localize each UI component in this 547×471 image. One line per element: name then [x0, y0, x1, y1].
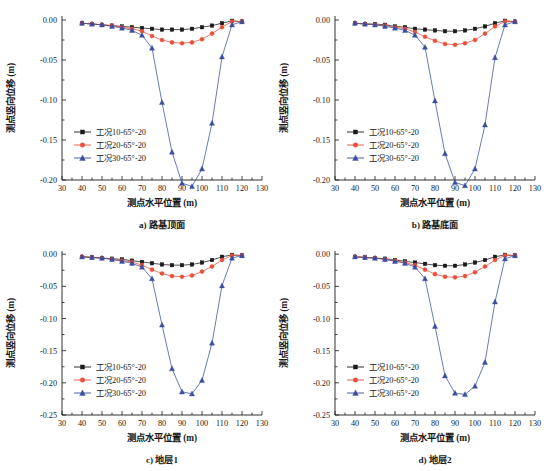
y-axis-title: 测点竖向位移 (m) — [5, 298, 17, 368]
data-point — [492, 55, 497, 60]
data-point — [210, 264, 214, 268]
x-tick-label: 70 — [138, 184, 146, 193]
data-point — [190, 27, 194, 31]
data-point — [433, 263, 437, 267]
data-point — [160, 271, 164, 275]
legend-marker — [80, 143, 85, 148]
data-point — [432, 98, 437, 103]
x-tick-label: 130 — [256, 419, 268, 428]
series-2 — [80, 20, 244, 46]
legend-marker — [353, 130, 357, 134]
y-tick-label: 0.00 — [43, 16, 57, 25]
data-point — [210, 32, 214, 36]
legend-label: 工况20-65°-20 — [369, 141, 419, 150]
data-point — [170, 40, 174, 44]
data-point — [473, 270, 477, 274]
legend-marker — [353, 143, 358, 148]
data-point — [482, 122, 487, 127]
data-point — [179, 180, 184, 185]
data-point — [199, 166, 204, 171]
x-tick-label: 120 — [236, 419, 248, 428]
chart-c: 304050607080901001101201300.00-0.05-0.10… — [0, 235, 273, 470]
x-tick-label: 50 — [98, 419, 106, 428]
data-point — [443, 264, 447, 268]
y-tick-label: -0.10 — [40, 96, 57, 105]
data-point — [180, 28, 184, 32]
subplot-caption: d) 地层2 — [418, 454, 451, 465]
y-tick-label: 0.00 — [316, 250, 330, 259]
subplot-c: 304050607080901001101201300.00-0.05-0.10… — [0, 235, 273, 470]
legend-label: 工况20-65°-20 — [96, 141, 146, 150]
x-axis-title: 测点水平位置 (m) — [400, 432, 470, 444]
data-point — [473, 261, 477, 265]
data-point — [423, 268, 427, 272]
x-tick-label: 130 — [529, 419, 541, 428]
x-tick-label: 60 — [118, 419, 126, 428]
data-point — [220, 25, 224, 29]
x-tick-label: 30 — [331, 184, 339, 193]
x-tick-label: 70 — [411, 184, 419, 193]
x-axis-ticks: 30405060708090100110120130 — [331, 176, 541, 193]
subplot-a: 304050607080901001101201300.00-0.05-0.10… — [0, 0, 273, 235]
x-tick-label: 40 — [351, 184, 359, 193]
x-tick-label: 60 — [391, 184, 399, 193]
data-point — [219, 283, 224, 288]
x-tick-label: 50 — [371, 184, 379, 193]
data-point — [432, 323, 437, 328]
x-tick-label: 110 — [489, 184, 501, 193]
data-point — [209, 340, 214, 345]
data-point — [423, 262, 427, 266]
data-point — [463, 263, 467, 267]
y-tick-label: -0.15 — [313, 136, 330, 145]
data-point — [170, 263, 174, 267]
data-point — [209, 120, 214, 125]
data-point — [453, 29, 457, 33]
data-point — [200, 270, 204, 274]
data-point — [150, 34, 154, 38]
x-tick-label: 50 — [98, 184, 106, 193]
y-tick-label: -0.05 — [40, 282, 57, 291]
legend: 工况10-65°-20工况20-65°-20工况30-65°-20 — [347, 363, 419, 398]
x-tick-label: 90 — [178, 419, 186, 428]
series-1 — [353, 19, 517, 33]
y-tick-label: -0.25 — [313, 411, 330, 420]
y-tick-label: -0.15 — [313, 347, 330, 356]
y-tick-label: 0.00 — [316, 16, 330, 25]
legend-label: 工况30-65°-20 — [369, 389, 419, 398]
subplot-caption: b) 路基底面 — [412, 219, 458, 230]
x-tick-label: 110 — [216, 184, 228, 193]
data-point — [210, 24, 214, 28]
x-tick-label: 110 — [216, 419, 228, 428]
data-point — [453, 275, 457, 279]
legend: 工况10-65°-20工况20-65°-20工况30-65°-20 — [74, 363, 146, 398]
x-tick-label: 80 — [431, 419, 439, 428]
legend-label: 工况30-65°-20 — [96, 389, 146, 398]
y-tick-label: -0.05 — [40, 56, 57, 65]
legend-marker — [80, 130, 84, 134]
data-point — [483, 25, 487, 29]
y-tick-label: -0.20 — [313, 176, 330, 185]
y-axis-title: 测点竖向位移 (m) — [278, 298, 290, 368]
legend: 工况10-65°-20工况20-65°-20工况30-65°-20 — [74, 128, 146, 163]
data-point — [443, 29, 447, 33]
figure-container: 304050607080901001101201300.00-0.05-0.10… — [0, 0, 547, 471]
data-point — [180, 263, 184, 267]
data-point — [159, 100, 164, 105]
x-tick-label: 30 — [331, 419, 339, 428]
x-tick-label: 50 — [371, 419, 379, 428]
data-point — [433, 39, 437, 43]
data-point — [170, 28, 174, 32]
x-tick-label: 90 — [451, 184, 459, 193]
x-axis-title: 测点水平位置 (m) — [400, 197, 470, 209]
x-tick-label: 80 — [158, 419, 166, 428]
x-tick-label: 130 — [256, 184, 268, 193]
data-point — [200, 261, 204, 265]
data-point — [200, 25, 204, 29]
x-tick-label: 120 — [509, 184, 521, 193]
y-axis-title: 测点竖向位移 (m) — [278, 63, 290, 133]
subplot-caption: c) 地层1 — [146, 454, 178, 465]
y-tick-label: -0.15 — [40, 347, 57, 356]
data-point — [179, 389, 184, 394]
legend-label: 工况30-65°-20 — [96, 154, 146, 163]
chart-b: 304050607080901001101201300.00-0.05-0.10… — [273, 0, 546, 235]
